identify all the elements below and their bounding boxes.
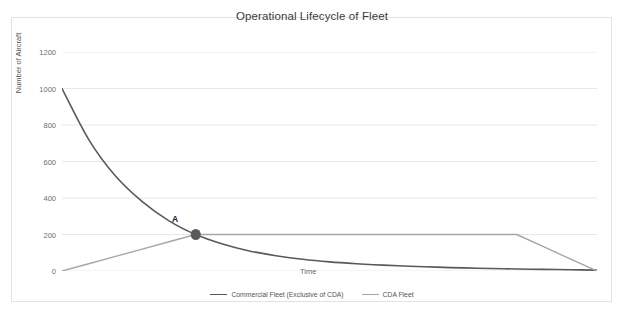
plot-area <box>62 52 597 271</box>
chart-title: Operational Lifecycle of Fleet <box>0 10 624 22</box>
y-axis-tick: 0 <box>22 267 56 276</box>
annotation-marker-dot <box>191 229 201 240</box>
legend-item-commercial-fleet[interactable]: Commercial Fleet (Exclusive of CDA) <box>210 291 343 298</box>
legend-label: CDA Fleet <box>383 291 414 298</box>
y-axis-tick: 1200 <box>22 48 56 57</box>
legend-swatch-icon <box>362 294 379 296</box>
legend-item-cda-fleet[interactable]: CDA Fleet <box>362 291 414 298</box>
annotation-label-a: A <box>172 214 178 224</box>
y-axis-tick-group: 1200 1000 800 600 400 200 0 <box>22 0 56 310</box>
y-axis-tick: 800 <box>22 121 56 130</box>
x-axis-title: Time <box>300 267 316 276</box>
y-axis-tick: 600 <box>22 157 56 166</box>
legend-label: Commercial Fleet (Exclusive of CDA) <box>231 291 343 298</box>
y-axis-tick: 400 <box>22 194 56 203</box>
y-axis-tick: 200 <box>22 230 56 239</box>
gridline-group <box>62 52 597 271</box>
chart-legend: Commercial Fleet (Exclusive of CDA) CDA … <box>0 291 624 298</box>
series-line-cda-fleet <box>62 235 597 272</box>
series-line-commercial-fleet <box>62 89 597 271</box>
legend-swatch-icon <box>210 294 227 296</box>
y-axis-tick: 1000 <box>22 84 56 93</box>
chart-canvas <box>62 52 597 271</box>
